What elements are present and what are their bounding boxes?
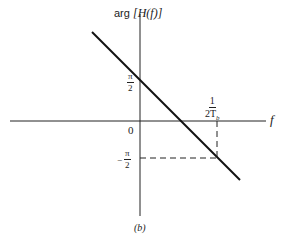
- y-axis-label: arg [H(f)]: [114, 6, 162, 21]
- caption: (b): [134, 222, 146, 233]
- tick-num: π: [124, 149, 131, 160]
- origin-label: 0: [128, 124, 134, 136]
- x-axis-label: f: [270, 112, 274, 128]
- tick-num: 1: [209, 96, 216, 108]
- tick-den: 2: [125, 160, 130, 170]
- tick-1-over-2tb: 1 2Tb: [205, 96, 220, 122]
- minus-sign: −: [117, 155, 122, 165]
- tick-pi-over-2: π 2: [127, 72, 134, 93]
- tick-den: 2: [128, 83, 133, 93]
- tick-neg-pi-over-2: − π 2: [117, 149, 131, 170]
- tick-num: π: [127, 72, 134, 83]
- tick-den-sub: b: [216, 114, 220, 122]
- tick-den: 2T: [205, 108, 216, 119]
- arg-text: arg: [114, 7, 130, 19]
- phase-plot: [0, 0, 283, 237]
- h-of-f-text: [H(f)]: [133, 6, 162, 20]
